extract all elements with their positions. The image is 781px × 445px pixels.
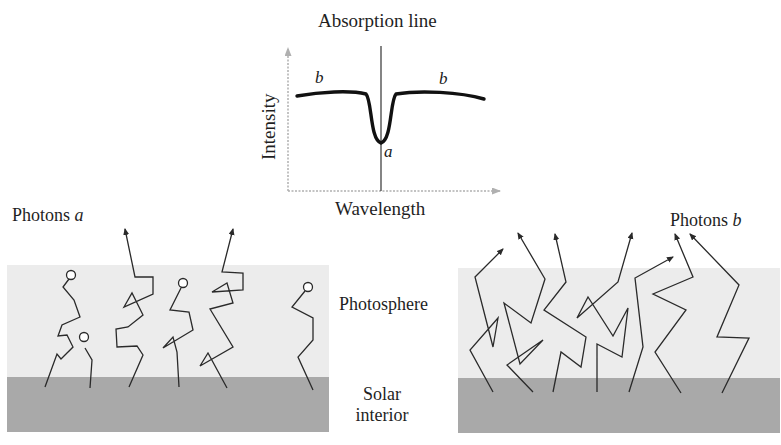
- chart-title: Absorption line: [318, 10, 437, 32]
- solar-interior-layer-left: [7, 377, 329, 432]
- right-panel: [458, 233, 780, 433]
- absorption-line-diagram: Absorption line Wavelength Intensity b b…: [0, 0, 781, 445]
- absorption-circle-2: [80, 333, 89, 342]
- photons-b-heading: Photons b: [670, 210, 742, 231]
- solar-interior-label: Solar interior: [329, 384, 435, 426]
- continuum-label-left: b: [315, 68, 324, 88]
- line-center-label: a: [384, 142, 393, 162]
- y-axis-label: Intensity: [258, 94, 280, 161]
- continuum-label-right: b: [439, 69, 448, 89]
- photons-b-variable: b: [733, 210, 742, 230]
- solar-interior-line1: Solar: [329, 384, 435, 405]
- absorption-circle-1: [67, 271, 76, 280]
- diagram-graphics: [0, 0, 781, 445]
- photosphere-label: Photosphere: [339, 294, 428, 315]
- absorption-circle-4: [304, 283, 313, 292]
- left-panel: [7, 229, 329, 432]
- photons-b-prefix: Photons: [670, 210, 733, 230]
- absorption-circle-3: [179, 279, 188, 288]
- photons-a-heading: Photons a: [12, 205, 84, 226]
- solar-interior-layer-right: [458, 378, 780, 433]
- solar-interior-line2: interior: [329, 405, 435, 426]
- x-axis-label: Wavelength: [335, 198, 425, 220]
- intensity-curve: [297, 92, 484, 143]
- photons-a-variable: a: [75, 205, 84, 225]
- photons-a-prefix: Photons: [12, 205, 75, 225]
- photosphere-layer-right: [458, 268, 780, 378]
